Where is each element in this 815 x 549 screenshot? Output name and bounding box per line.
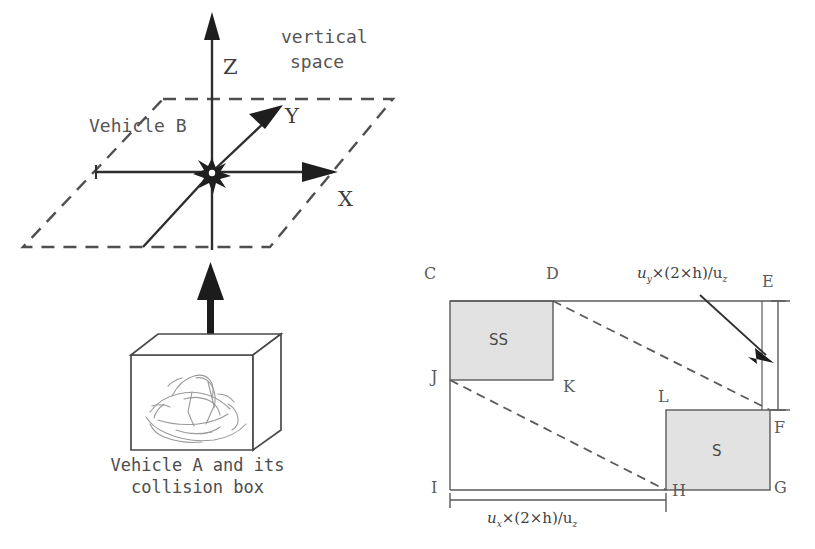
node-label-F: F	[774, 420, 785, 437]
node-label-K: K	[563, 379, 575, 396]
figure-canvas: vertical space Z Y X Vehicle B Vehicle A…	[0, 0, 815, 549]
node-label-E: E	[762, 274, 774, 291]
horizontal-dimension-formula: ux×(2×h)/uz	[487, 511, 577, 529]
vertical-dimension-formula: uy×(2×h)/uz	[637, 266, 727, 284]
formula-u-x-body: ×(2×h)/u	[502, 509, 573, 527]
formula-u-y-base: u	[637, 264, 647, 282]
formula-u-x-base: u	[487, 509, 497, 527]
dashed-diagonal-j-to-h	[450, 380, 666, 490]
node-label-H: H	[672, 483, 686, 500]
node-label-I: I	[431, 480, 437, 497]
region-label-s: S	[712, 444, 722, 460]
node-label-J: J	[431, 369, 437, 386]
formula-u-y-subscript2: z	[723, 274, 728, 284]
node-label-L: L	[658, 389, 669, 406]
node-label-C: C	[424, 266, 436, 283]
formula-u-x-subscript2: z	[573, 519, 578, 529]
node-label-D: D	[546, 266, 559, 283]
formula-u-y-body: ×(2×h)/u	[652, 264, 723, 282]
vertical-dimension-leader-arrow	[700, 295, 774, 364]
vertical-dimension-bracket	[762, 301, 786, 410]
region-label-ss: SS	[489, 333, 508, 349]
node-label-G: G	[774, 480, 787, 497]
